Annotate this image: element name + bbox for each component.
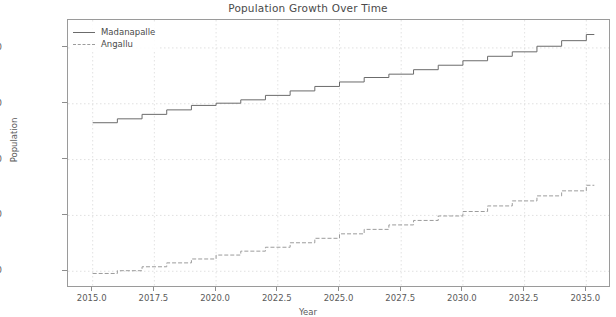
x-tick-mark: [338, 287, 339, 291]
x-axis-label: Year: [0, 307, 616, 317]
y-axis-label: Population: [9, 80, 19, 200]
x-tick-mark: [461, 287, 462, 291]
y-tick-mark: [62, 46, 67, 47]
x-tick-label: 2030.0: [447, 293, 477, 303]
legend-label: Madanapalle: [101, 27, 155, 37]
x-tick-label: 2015.0: [77, 293, 107, 303]
series-line-madanapalle: [93, 35, 595, 123]
y-tick-mark: [62, 214, 67, 215]
x-tick-label: 2035.0: [570, 293, 600, 303]
x-tick-mark: [276, 287, 277, 291]
y-tick-label: 200000: [0, 98, 2, 108]
x-tick-mark: [153, 287, 154, 291]
x-tick-mark: [585, 287, 586, 291]
y-tick-label: 150000: [0, 154, 2, 164]
legend-line-swatch: [73, 28, 95, 37]
x-tick-label: 2027.5: [385, 293, 415, 303]
legend-label: Angallu: [101, 39, 133, 49]
chart-title: Population Growth Over Time: [0, 2, 616, 14]
x-tick-label: 2032.5: [509, 293, 539, 303]
legend-entry-angallu[interactable]: Angallu: [73, 38, 155, 50]
y-tick-label: 250000: [0, 42, 2, 52]
legend-entry-madanapalle[interactable]: Madanapalle: [73, 26, 155, 38]
x-tick-mark: [215, 287, 216, 291]
chart-legend: MadanapalleAngallu: [71, 24, 159, 52]
x-tick-label: 2020.0: [200, 293, 230, 303]
y-tick-mark: [62, 270, 67, 271]
x-tick-mark: [91, 287, 92, 291]
y-tick-label: 100000: [0, 209, 2, 219]
y-tick-mark: [62, 102, 67, 103]
plot-area: [67, 19, 610, 287]
legend-line-swatch: [73, 40, 95, 49]
series-line-angallu: [93, 185, 595, 273]
chart-screenshot: Population Growth Over Time 500001000001…: [0, 0, 616, 317]
series-lines: [93, 35, 595, 274]
x-tick-label: 2017.5: [139, 293, 169, 303]
x-tick-mark: [523, 287, 524, 291]
y-tick-label: 50000: [0, 265, 2, 275]
plot-canvas: [68, 20, 610, 287]
gridlines: [68, 20, 610, 287]
x-tick-label: 2022.5: [262, 293, 292, 303]
x-tick-mark: [400, 287, 401, 291]
x-tick-label: 2025.0: [324, 293, 354, 303]
y-tick-mark: [62, 158, 67, 159]
